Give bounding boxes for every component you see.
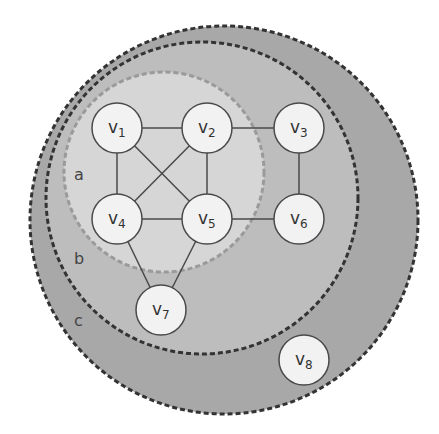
node-v3: v3 [274,103,324,153]
node-v5: v5 [182,194,232,244]
region-b-label: b [74,249,84,268]
node-v6: v6 [274,194,324,244]
node-v7: v7 [136,285,186,335]
region-c-label: c [74,311,83,330]
node-v2: v2 [182,103,232,153]
region-a-label: a [74,165,84,184]
node-v1: v1 [92,103,142,153]
node-v8: v8 [279,335,329,385]
graph-diagram: v1v2v3v4v5v6v7v8 cba [0,0,439,434]
node-v4: v4 [92,194,142,244]
